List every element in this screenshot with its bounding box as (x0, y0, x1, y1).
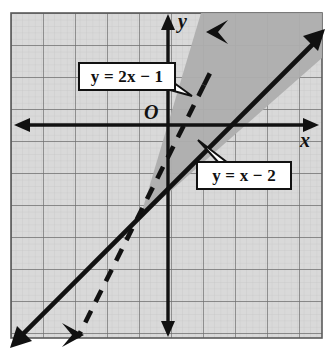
y-axis-label: y (176, 10, 187, 33)
equation-label-dashed-line: y = 2x − 1 (78, 62, 176, 91)
equation-text-line2: y = x − 2 (212, 167, 276, 184)
equation-label-solid-line: y = x − 2 (196, 161, 292, 190)
x-axis-label: x (299, 129, 310, 151)
equation-text-line1: y = 2x − 1 (91, 68, 163, 85)
graph-figure: y x O y = 2x − 1 y = x − 2 (0, 0, 330, 350)
origin-label: O (144, 101, 158, 123)
